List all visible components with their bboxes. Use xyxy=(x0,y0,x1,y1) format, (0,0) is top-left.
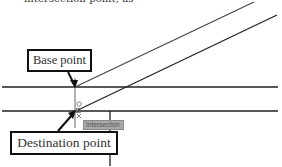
intersection-snap-tooltip: Intersection xyxy=(83,120,124,130)
destination-point-arrow xyxy=(58,110,76,131)
base-point-callout: Base point xyxy=(27,49,92,72)
base-point-arrow xyxy=(68,72,78,88)
destination-point-label: Destination point xyxy=(17,135,110,151)
destination-point-callout: Destination point xyxy=(10,131,118,155)
base-point-label: Base point xyxy=(33,53,86,68)
diagonal-line-lower xyxy=(78,15,277,110)
diagonal-line-upper xyxy=(75,2,254,87)
